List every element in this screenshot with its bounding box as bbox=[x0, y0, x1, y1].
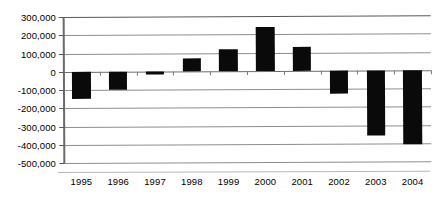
y-tick-label: -300,000 bbox=[18, 121, 56, 132]
x-tick-label: 2002 bbox=[328, 176, 350, 187]
y-tick-label: -100,000 bbox=[18, 85, 56, 96]
x-tick-label: 1998 bbox=[181, 176, 203, 187]
x-tick-mark bbox=[100, 72, 101, 76]
bar-chart: 300,000200,000100,0000-100,000-200,000-3… bbox=[0, 0, 440, 201]
y-tick-label: 200,000 bbox=[21, 30, 56, 41]
x-tick-mark bbox=[210, 71, 211, 75]
bar bbox=[293, 47, 312, 71]
y-tick-label: 300,000 bbox=[21, 12, 56, 23]
x-tick-label: 1999 bbox=[218, 176, 240, 187]
y-tick-mark bbox=[59, 53, 64, 54]
y-tick-label: -500,000 bbox=[18, 158, 56, 169]
plot-area bbox=[63, 17, 431, 163]
x-tick-mark bbox=[284, 71, 285, 75]
bar bbox=[219, 49, 237, 71]
x-tick-mark bbox=[137, 71, 138, 75]
bar bbox=[256, 27, 275, 71]
x-tick-mark bbox=[247, 71, 248, 75]
x-tick-mark bbox=[394, 70, 395, 74]
gridline bbox=[63, 161, 431, 164]
bar bbox=[330, 70, 349, 94]
bar bbox=[146, 71, 164, 75]
x-tick-mark bbox=[321, 70, 322, 74]
x-tick-mark bbox=[431, 70, 432, 74]
y-tick-label: -400,000 bbox=[18, 139, 56, 150]
x-tick-mark bbox=[173, 71, 174, 75]
y-axis-label-group: 300,000200,000100,0000-100,000-200,000-3… bbox=[0, 0, 62, 201]
bar bbox=[403, 70, 422, 144]
x-tick-label: 1995 bbox=[71, 176, 93, 187]
bar bbox=[109, 71, 127, 89]
gridline bbox=[63, 52, 431, 55]
y-tick-mark bbox=[59, 90, 64, 91]
bar bbox=[367, 70, 386, 136]
gridline bbox=[63, 143, 431, 146]
y-tick-mark bbox=[59, 145, 64, 146]
y-tick-mark bbox=[59, 108, 64, 109]
y-tick-mark bbox=[59, 72, 64, 73]
y-tick-label: 0 bbox=[51, 66, 56, 77]
y-tick-label: 100,000 bbox=[21, 48, 56, 59]
x-tick-label: 1996 bbox=[107, 176, 129, 187]
x-tick-label: 2001 bbox=[291, 176, 313, 187]
gridline bbox=[63, 15, 431, 18]
y-tick-mark bbox=[59, 17, 64, 18]
y-tick-mark bbox=[59, 163, 64, 164]
x-tick-label: 2000 bbox=[255, 176, 277, 187]
x-tick-label: 2003 bbox=[365, 176, 387, 187]
bar bbox=[72, 72, 91, 99]
gridline-group bbox=[63, 15, 431, 17]
bar bbox=[182, 58, 200, 71]
x-axis-label-group: 1995199619971998199920002001200220032004 bbox=[63, 176, 431, 192]
x-tick-label: 1997 bbox=[144, 176, 166, 187]
plot-inner bbox=[63, 15, 432, 163]
y-tick-mark bbox=[59, 35, 64, 36]
y-tick-mark bbox=[59, 126, 64, 127]
x-tick-label: 2004 bbox=[402, 176, 424, 187]
baseline-rule bbox=[58, 171, 430, 173]
gridline bbox=[63, 33, 431, 36]
y-tick-label: -200,000 bbox=[18, 103, 56, 114]
x-tick-mark bbox=[357, 70, 358, 74]
